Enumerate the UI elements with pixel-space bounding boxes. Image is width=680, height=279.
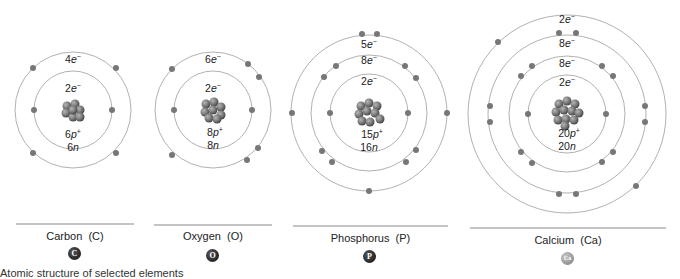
carbon-symbol-icon: C: [68, 247, 81, 260]
shell-1-label: 2e−: [205, 82, 221, 94]
nucleus: [201, 98, 226, 124]
phosphorus-label: Phosphorus (P): [293, 232, 448, 244]
nucleus: [62, 100, 85, 122]
neutron-count: 8n: [207, 139, 219, 151]
neutron-count: 6n: [67, 141, 79, 153]
phosphorus-symbol-icon: P: [363, 250, 376, 263]
neutron-count: 16n: [360, 141, 378, 153]
nucleus: [552, 97, 584, 131]
nucleus: [355, 99, 385, 127]
shell-3-label: 5e−: [361, 38, 377, 50]
shell-1-label: 2e−: [65, 82, 81, 94]
atom-oxygen: 2e− 6e− 8p+ 8n: [155, 52, 271, 168]
calcium-symbol-icon: Ca: [561, 252, 574, 265]
shell-2-label: 4e−: [65, 53, 81, 65]
figure-caption: Atomic structure of selected elements: [0, 267, 183, 279]
shell-2-label: 6e−: [205, 53, 221, 65]
calcium-label: Calcium (Ca): [470, 234, 666, 246]
proton-count: 6p+: [65, 128, 81, 140]
shell-4-label: 2e−: [559, 13, 575, 25]
shell-2-label: 8e−: [361, 54, 377, 66]
oxygen-label: Oxygen (O): [154, 230, 272, 242]
shell-2-label: 8e−: [559, 57, 575, 69]
carbon-label: Carbon (C): [16, 230, 134, 242]
oxygen-symbol-icon: O: [206, 249, 219, 262]
atom-carbon: 2e− 4e− 6p+ 6n: [15, 52, 131, 168]
atom-calcium: 2e− 8e− 8e− 2e− 20p+ 20n: [468, 13, 666, 213]
proton-count: 20p+: [558, 127, 580, 139]
atom-phosphorus: 2e− 8e− 5e− 15p+ 16n: [289, 31, 450, 194]
proton-count: 15p+: [361, 128, 383, 140]
proton-count: 8p+: [207, 126, 223, 138]
shell-1-label: 2e−: [559, 76, 575, 88]
shell-3-label: 8e−: [559, 37, 575, 49]
shell-1-label: 2e−: [361, 75, 377, 87]
neutron-count: 20n: [558, 140, 576, 152]
